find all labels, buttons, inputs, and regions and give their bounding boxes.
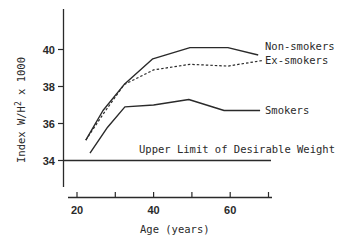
series-non-smokers: [86, 48, 258, 141]
legend-ex-smokers: Ex-smokers: [265, 54, 328, 66]
legend-smokers: Smokers: [265, 104, 309, 116]
y-ticks: 34363840: [43, 44, 64, 167]
y-tick-label: 36: [43, 118, 55, 130]
y-tick-label: 38: [43, 81, 55, 93]
x-tick-label: 60: [224, 204, 236, 216]
chart: 34363840 204060 Upper Limit of Desirable…: [0, 0, 344, 245]
series-lines: [86, 48, 262, 154]
x-tick-label: 40: [147, 204, 159, 216]
x-tick-label: 20: [71, 204, 83, 216]
y-axis-title: Index W/H2 x 1000: [14, 57, 27, 163]
upper-limit-label: Upper Limit of Desirable Weight: [139, 143, 335, 155]
y-tick-label: 34: [43, 155, 56, 167]
x-ticks: 204060: [71, 192, 269, 216]
x-axis-title: Age (years): [140, 223, 210, 235]
y-tick-label: 40: [43, 44, 55, 56]
legend-non-smokers: Non-smokers: [265, 40, 335, 52]
series-ex-smokers: [86, 61, 262, 141]
